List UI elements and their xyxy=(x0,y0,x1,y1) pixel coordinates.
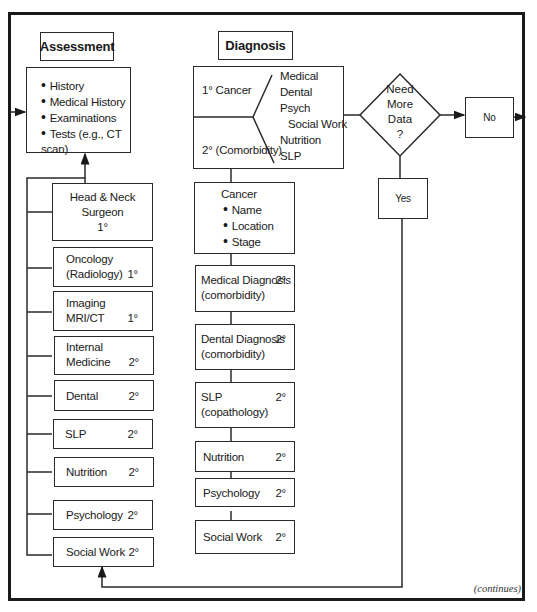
continues-note: (continues) xyxy=(474,583,521,594)
decision-line: Data xyxy=(370,112,430,127)
decision-line: ? xyxy=(370,127,430,142)
yes-label: Yes xyxy=(395,191,411,206)
yes-box[interactable]: Yes xyxy=(378,178,428,219)
decision-line: Need xyxy=(370,82,430,97)
no-box[interactable]: No xyxy=(465,97,514,138)
decision-line: More xyxy=(370,97,430,112)
no-label: No xyxy=(483,110,495,125)
yes-return-path xyxy=(0,0,537,612)
need-more-data-decision[interactable]: Need More Data ? xyxy=(370,82,430,142)
